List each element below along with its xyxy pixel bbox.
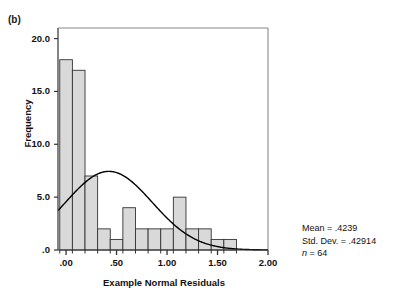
histogram-bar	[72, 70, 85, 250]
histogram-bar	[148, 229, 161, 250]
histogram-bar	[199, 229, 212, 250]
histogram-bar	[135, 229, 148, 250]
histogram-bar	[123, 208, 136, 250]
histogram-bar	[211, 239, 224, 250]
stat-n-value: = 64	[307, 248, 327, 258]
histogram-bar	[110, 239, 123, 250]
stat-n: n = 64	[302, 247, 376, 260]
histogram-bar	[60, 60, 73, 250]
x-axis-tick-label: .50	[97, 257, 137, 268]
x-axis-tick-label: .00	[46, 257, 86, 268]
x-axis-tick-label: 1.50	[198, 257, 238, 268]
histogram-figure: (b) Frequency Example Normal Residuals .…	[0, 0, 415, 299]
y-axis-tick-label: 10.0	[14, 138, 50, 149]
y-axis-tick-label: 5.0	[14, 191, 50, 202]
x-axis-tick-label: 2.00	[248, 257, 288, 268]
histogram-bar	[161, 229, 174, 250]
y-axis-tick-label: 20.0	[14, 33, 50, 44]
histogram-bar	[85, 176, 98, 250]
y-axis-tick-label: 15.0	[14, 85, 50, 96]
histogram-bar	[173, 197, 186, 250]
histogram-bar	[98, 229, 111, 250]
x-axis-tick-label: 1.00	[147, 257, 187, 268]
stat-std-dev: Std. Dev. = .42914	[302, 235, 376, 248]
statistics-annotation: Mean = .4239 Std. Dev. = .42914 n = 64	[302, 222, 376, 260]
y-axis-tick-label: .0	[14, 244, 50, 255]
stat-mean: Mean = .4239	[302, 222, 376, 235]
